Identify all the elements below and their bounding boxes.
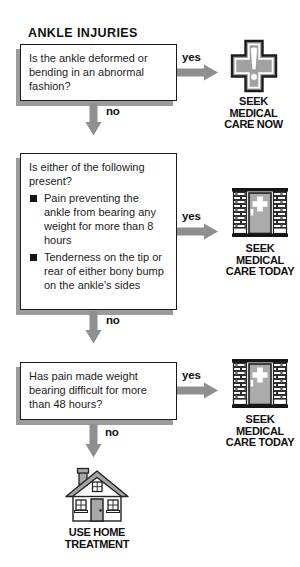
clinic-building-icon bbox=[232, 359, 288, 408]
no-label-2: no bbox=[106, 314, 120, 326]
yes-arrow-icon bbox=[177, 382, 219, 399]
medical-cross-icon bbox=[230, 39, 278, 93]
no-arrow-icon bbox=[85, 424, 102, 458]
page-title: ANKLE INJURIES bbox=[28, 26, 138, 40]
yes-arrow-icon bbox=[177, 64, 219, 81]
caption-line: CARE TODAY bbox=[220, 437, 300, 449]
house-icon bbox=[65, 467, 129, 525]
ankle-injuries-flowchart: ANKLE INJURIES Is the ankle deformed or … bbox=[0, 0, 300, 567]
caption-line: CARE NOW bbox=[217, 119, 290, 131]
caption-line: TREATMENT bbox=[57, 539, 137, 551]
caption-line: SEEK bbox=[220, 414, 300, 426]
list-item: Pain preventing the ankle from bearing a… bbox=[29, 191, 168, 247]
question-text: Is the ankle deformed or bending in an a… bbox=[29, 51, 168, 93]
decision-box-2: Is either of the following present? Pain… bbox=[20, 153, 177, 310]
caption-line: USE HOME bbox=[57, 527, 137, 539]
yes-label-1: yes bbox=[182, 51, 201, 63]
yes-arrow-icon bbox=[177, 223, 219, 240]
yes-label-2: yes bbox=[182, 210, 201, 222]
caption-line: SEEK bbox=[217, 96, 290, 108]
bullet-square-icon bbox=[30, 195, 37, 202]
question-text: Has pain made weight bearing difficult f… bbox=[29, 369, 168, 411]
no-label-3: no bbox=[105, 426, 119, 438]
no-label-1: no bbox=[106, 105, 120, 117]
caption-line: CARE TODAY bbox=[220, 266, 300, 278]
bullet-text: Tenderness on the tip or rear of either … bbox=[44, 251, 164, 291]
symptom-list: Pain preventing the ankle from bearing a… bbox=[29, 191, 168, 292]
outcome-caption-care-now: SEEK MEDICAL CARE NOW bbox=[217, 96, 290, 131]
no-arrow-icon bbox=[85, 103, 102, 136]
list-item: Tenderness on the tip or rear of either … bbox=[29, 250, 168, 292]
caption-line: SEEK bbox=[220, 243, 300, 255]
yes-label-3: yes bbox=[182, 369, 201, 381]
bullet-text: Pain preventing the ankle from bearing a… bbox=[44, 192, 156, 246]
decision-box-3: Has pain made weight bearing difficult f… bbox=[20, 362, 177, 420]
no-arrow-icon bbox=[85, 311, 102, 344]
outcome-caption-care-today: SEEK MEDICAL CARE TODAY bbox=[220, 243, 300, 278]
clinic-building-icon bbox=[232, 188, 288, 237]
outcome-caption-care-today: SEEK MEDICAL CARE TODAY bbox=[220, 414, 300, 449]
outcome-caption-home-treatment: USE HOME TREATMENT bbox=[57, 527, 137, 550]
decision-box-1: Is the ankle deformed or bending in an a… bbox=[20, 44, 177, 101]
question-text: Is either of the following present? bbox=[29, 160, 168, 188]
bullet-square-icon bbox=[30, 254, 37, 261]
